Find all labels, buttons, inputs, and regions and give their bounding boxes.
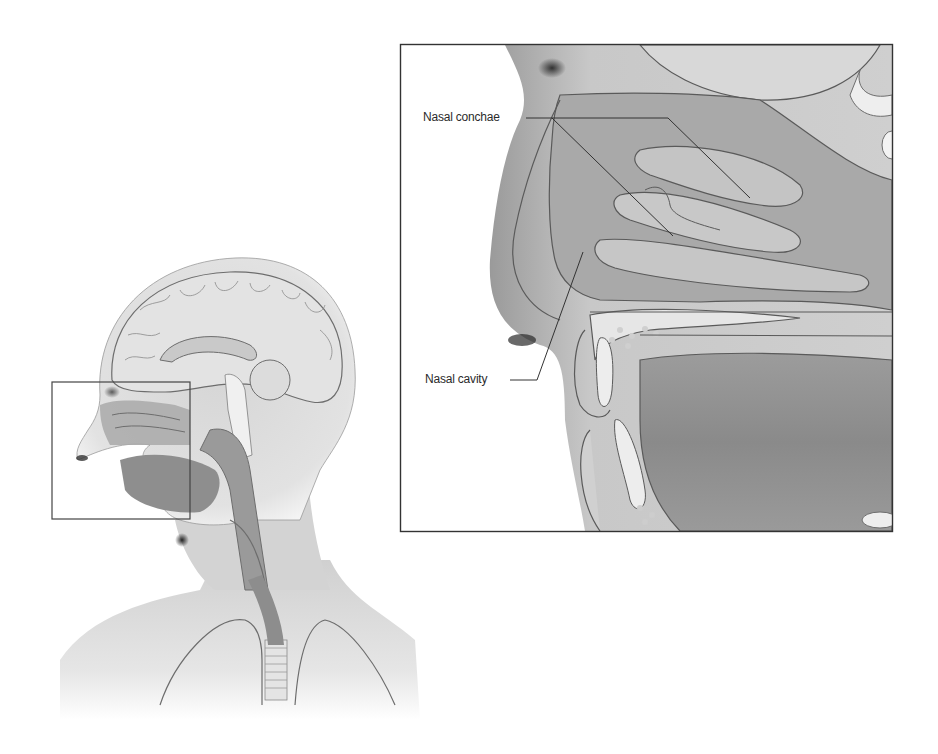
anatomy-figure: Nasal conchae Nasal cavity [0,0,938,754]
label-nasal-conchae: Nasal conchae [423,110,500,124]
label-nasal-cavity: Nasal cavity [425,372,487,386]
overview-nasal-region [100,400,190,445]
cerebellum [250,360,290,400]
